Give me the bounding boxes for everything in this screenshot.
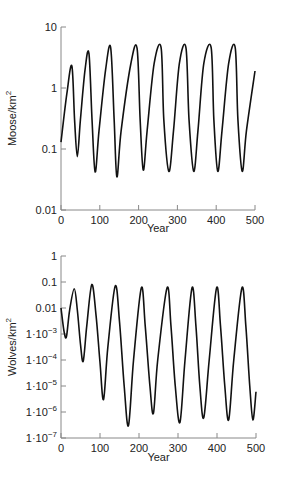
moose-wolves-chart: 1010.10.010100200300400500YearMoose/km2 …	[0, 0, 281, 489]
y-tick-label: 0.01	[36, 302, 57, 314]
wolves-density-panel: 10.10.011·10−31·10−41·10−51·10−61·10−701…	[4, 250, 265, 463]
y-tick-label: 0.1	[42, 276, 57, 288]
y-tick-label: 10	[45, 21, 57, 33]
y-tick-label: 1·10−3	[26, 326, 58, 340]
x-axis-title: Year	[147, 451, 170, 463]
y-axis-title: Moose/km2	[4, 90, 18, 146]
y-tick-label: 0.1	[42, 143, 57, 155]
x-tick-label: 500	[247, 442, 265, 454]
x-tick-label: 300	[168, 214, 186, 226]
x-axis-title: Year	[147, 222, 170, 234]
y-tick-label: 1·10−6	[26, 404, 58, 418]
y-axis-title: Wolves/km2	[4, 317, 18, 376]
x-tick-label: 300	[169, 442, 187, 454]
x-tick-label: 0	[58, 214, 64, 226]
x-tick-label: 100	[91, 442, 109, 454]
moose-density-panel: 1010.10.010100200300400500YearMoose/km2	[4, 21, 264, 234]
y-tick-label: 1	[51, 250, 57, 262]
x-tick-label: 400	[208, 442, 226, 454]
x-tick-label: 200	[129, 214, 147, 226]
x-tick-label: 500	[246, 214, 264, 226]
y-tick-label: 0.01	[36, 204, 57, 216]
y-tick-label: 1·10−4	[26, 352, 58, 366]
wolves-curve	[61, 284, 256, 426]
x-tick-label: 100	[91, 214, 109, 226]
moose-curve	[61, 44, 255, 177]
x-tick-label: 0	[58, 442, 64, 454]
y-tick-label: 1·10−7	[26, 430, 58, 444]
x-tick-label: 400	[207, 214, 225, 226]
y-tick-label: 1	[51, 82, 57, 94]
y-tick-label: 1·10−5	[26, 378, 58, 392]
x-tick-label: 200	[130, 442, 148, 454]
